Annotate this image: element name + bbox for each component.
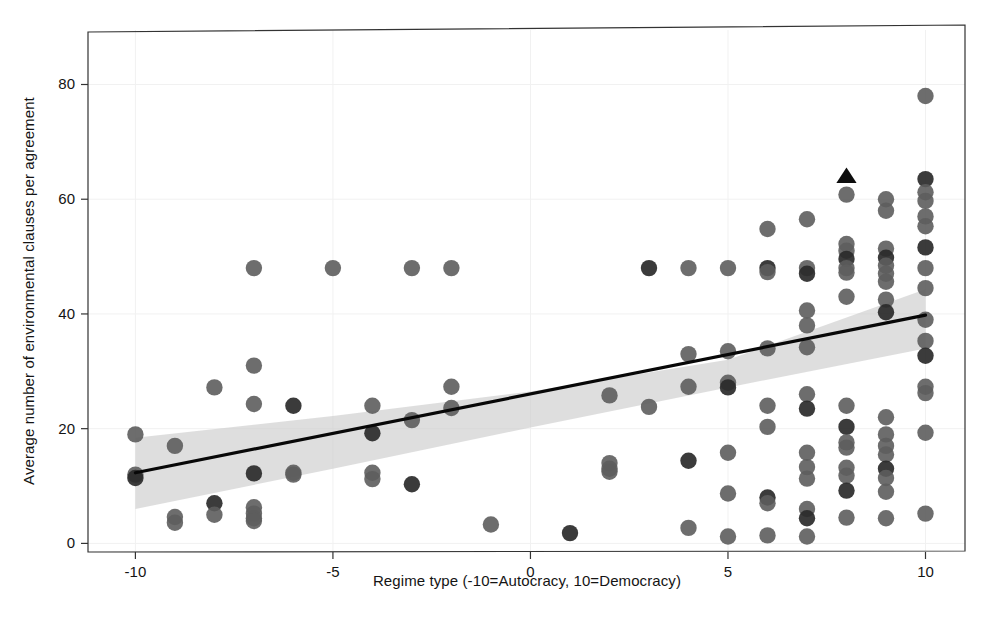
y-tick-label: 80 (58, 75, 75, 92)
x-tick-label: 10 (917, 563, 934, 580)
data-point (759, 419, 775, 435)
y-tick-label: 20 (58, 420, 75, 437)
data-point (483, 516, 499, 532)
data-point (246, 396, 262, 412)
x-tick-label: 5 (724, 563, 732, 580)
x-axis-title: Regime type (-10=Autocracy, 10=Democracy… (373, 572, 681, 589)
data-point (838, 509, 854, 525)
data-point (799, 211, 815, 227)
data-point (878, 510, 894, 526)
y-tick-label: 0 (67, 534, 75, 551)
data-point (917, 385, 933, 401)
data-point (878, 446, 894, 462)
data-point (680, 260, 696, 276)
y-axis-title: Average number of environmental clauses … (20, 96, 37, 484)
data-point (404, 260, 420, 276)
data-point (838, 468, 854, 484)
data-point (680, 379, 696, 395)
data-point (206, 507, 222, 523)
data-point (838, 264, 854, 280)
data-point (759, 221, 775, 237)
data-point (917, 348, 933, 364)
data-point (325, 260, 341, 276)
data-point (601, 387, 617, 403)
data-point (246, 465, 262, 481)
data-point (759, 527, 775, 543)
data-point (206, 379, 222, 395)
data-point (641, 399, 657, 415)
data-point (838, 482, 854, 498)
data-point (562, 525, 578, 541)
data-point (917, 505, 933, 521)
data-point (759, 264, 775, 280)
data-point (917, 239, 933, 255)
data-point (285, 466, 301, 482)
data-point (167, 515, 183, 531)
data-point (285, 398, 301, 414)
data-point (799, 510, 815, 526)
data-point (917, 260, 933, 276)
data-point (799, 528, 815, 544)
data-point (917, 333, 933, 349)
data-point (720, 485, 736, 501)
data-point (680, 453, 696, 469)
data-point (404, 476, 420, 492)
data-point (917, 88, 933, 104)
data-point (246, 357, 262, 373)
data-point (364, 398, 380, 414)
data-point (246, 513, 262, 529)
data-point (799, 302, 815, 318)
data-point (799, 445, 815, 461)
data-point (799, 266, 815, 282)
x-tick-label: -10 (125, 563, 147, 580)
x-tick-label: -5 (326, 563, 339, 580)
scatter-plot: -10-50510 020406080 Regime type (-10=Aut… (0, 0, 993, 618)
data-point (917, 193, 933, 209)
y-tick-label: 60 (58, 190, 75, 207)
data-point (878, 304, 894, 320)
data-point (799, 386, 815, 402)
data-point (680, 520, 696, 536)
data-point (917, 280, 933, 296)
data-point (838, 289, 854, 305)
data-point (878, 203, 894, 219)
data-point (799, 317, 815, 333)
data-point (443, 260, 459, 276)
data-point (799, 400, 815, 416)
data-point (720, 260, 736, 276)
data-point (759, 398, 775, 414)
data-point (720, 445, 736, 461)
data-point (838, 398, 854, 414)
data-point (127, 426, 143, 442)
data-point (838, 439, 854, 455)
data-point (917, 425, 933, 441)
data-point (246, 260, 262, 276)
data-point (878, 274, 894, 290)
y-tick-label: 40 (58, 305, 75, 322)
data-point (167, 438, 183, 454)
data-point (443, 379, 459, 395)
data-point (838, 186, 854, 202)
data-point (838, 419, 854, 435)
data-point (878, 409, 894, 425)
data-point (720, 379, 736, 395)
data-point (641, 260, 657, 276)
data-point (601, 464, 617, 480)
data-point (799, 470, 815, 486)
data-point (917, 218, 933, 234)
data-point (759, 495, 775, 511)
data-point (878, 484, 894, 500)
chart-figure: -10-50510 020406080 Regime type (-10=Aut… (0, 0, 993, 618)
data-point (364, 471, 380, 487)
data-point (720, 528, 736, 544)
